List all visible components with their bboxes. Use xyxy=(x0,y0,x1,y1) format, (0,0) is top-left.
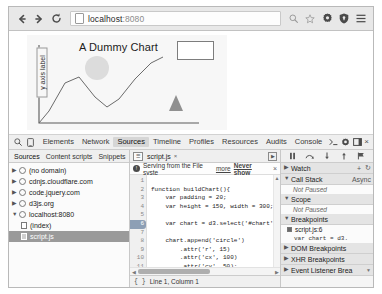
navtab-sources[interactable]: Sources xyxy=(11,153,43,160)
tree-item-d3js[interactable]: ▶ d3js.org xyxy=(9,198,129,209)
section-scope[interactable]: ▼ Scope xyxy=(281,194,373,205)
tab-sources[interactable]: Sources xyxy=(113,137,149,147)
code-area[interactable]: 1 2 3 4 5 6 7 8 9 10 11 12 xyxy=(130,175,280,275)
tree-item-index[interactable]: (index) xyxy=(9,220,129,231)
tree-item-cdnjs[interactable]: ▶ cdnjs.cloudflare.com xyxy=(9,176,129,187)
tree-item-label: (index) xyxy=(30,222,51,229)
console-prompt-icon[interactable] xyxy=(329,137,338,148)
tab-audits[interactable]: Audits xyxy=(262,137,291,147)
pretty-print-icon[interactable]: { } xyxy=(134,278,146,285)
line-number-breakpoint[interactable]: 6 xyxy=(130,220,146,229)
editor-nav-icon[interactable]: ☰ xyxy=(133,152,143,161)
twisty-icon[interactable]: ▼ xyxy=(12,212,19,218)
navtab-snippets[interactable]: Snippets xyxy=(95,153,128,160)
tab-console[interactable]: Console xyxy=(291,137,327,147)
code-line: var chart = d3.select('#chart'); xyxy=(151,220,280,229)
twisty-icon[interactable]: ▶ xyxy=(284,267,291,273)
step-into-icon[interactable] xyxy=(322,151,332,161)
tree-item-scriptjs[interactable]: script.js xyxy=(9,231,129,242)
line-number[interactable]: 9 xyxy=(130,246,146,255)
twisty-icon[interactable]: ▶ xyxy=(12,201,19,207)
tree-item-localhost[interactable]: ▼ localhost:8080 xyxy=(9,209,129,220)
twisty-icon[interactable]: ▶ xyxy=(284,256,291,262)
address-bar[interactable]: localhost:8080 xyxy=(70,11,281,26)
infobar-close-icon[interactable]: × xyxy=(273,165,277,172)
section-dom-breakpoints[interactable]: ▶ DOM Breakpoints xyxy=(281,243,373,254)
scrollbar-thumb[interactable] xyxy=(138,269,210,274)
device-toggle-icon[interactable] xyxy=(26,137,36,148)
source-editor: ☰ script.js × ▶ ! Serving from the File … xyxy=(130,150,281,287)
navigator-tabbar: Sources Content scripts Snippets xyxy=(9,150,129,163)
navtab-content-scripts[interactable]: Content scripts xyxy=(43,153,96,160)
section-watch[interactable]: ▶ Watch + ↻ xyxy=(281,163,373,174)
forward-arrow-icon[interactable] xyxy=(32,12,46,26)
section-xhr-breakpoints[interactable]: ▶ XHR Breakpoints xyxy=(281,254,373,265)
bookmark-star-icon[interactable] xyxy=(304,13,316,25)
gear-icon[interactable] xyxy=(321,13,333,25)
step-out-icon[interactable] xyxy=(339,151,349,161)
section-call-stack[interactable]: ▼ Call Stack Async xyxy=(281,174,373,185)
search-icon[interactable] xyxy=(287,13,299,25)
devtools-gear-icon[interactable] xyxy=(341,137,350,148)
twisty-icon[interactable]: ▶ xyxy=(12,168,19,174)
breakpoint-item[interactable]: script.js:6 xyxy=(281,225,373,234)
editor-horizontal-scrollbar[interactable]: ◀ ▶ xyxy=(130,267,280,275)
tree-item-jquery[interactable]: ▶ code.jquery.com xyxy=(9,187,129,198)
close-icon[interactable]: × xyxy=(174,153,178,159)
tab-elements[interactable]: Elements xyxy=(39,137,78,147)
twisty-icon[interactable]: ▼ xyxy=(284,216,291,222)
tree-item-no-domain[interactable]: ▶ (no domain) xyxy=(9,165,129,176)
async-toggle[interactable]: Async xyxy=(350,176,373,183)
tab-timeline[interactable]: Timeline xyxy=(149,137,185,147)
infobar-never-show-link[interactable]: Never show xyxy=(234,162,267,176)
menu-icon[interactable] xyxy=(355,13,367,25)
tab-network[interactable]: Network xyxy=(78,137,114,147)
reload-icon[interactable] xyxy=(49,12,63,26)
debugger-sidebar: ▶ Watch + ↻ ▼ Call Stack Async Not Pause… xyxy=(281,150,373,287)
line-number[interactable]: 5 xyxy=(130,211,146,220)
twisty-icon[interactable]: ▼ xyxy=(284,176,291,182)
line-number[interactable]: 2 xyxy=(130,186,146,195)
globe-icon xyxy=(19,200,26,207)
line-number-gutter[interactable]: 1 2 3 4 5 6 7 8 9 10 11 12 xyxy=(130,175,147,275)
twisty-icon[interactable]: ▶ xyxy=(284,245,291,251)
section-event-listener-breakpoints[interactable]: ▶ Event Listener Brea ▼ xyxy=(281,265,373,276)
twisty-icon[interactable]: ▶ xyxy=(12,190,19,196)
editor-vertical-scrollbar[interactable]: ▲ ▼ xyxy=(273,175,280,275)
tree-item-label: (no domain) xyxy=(29,167,66,174)
step-over-icon[interactable] xyxy=(305,151,315,161)
tab-resources[interactable]: Resources xyxy=(218,137,262,147)
line-number[interactable]: 3 xyxy=(130,194,146,203)
editor-tab-scriptjs[interactable]: script.js × xyxy=(147,153,177,160)
scroll-up-arrow-icon[interactable]: ▲ xyxy=(275,175,280,181)
scroll-left-arrow-icon[interactable]: ◀ xyxy=(130,269,137,275)
infobar-more-link[interactable]: more xyxy=(216,165,231,172)
twisty-icon[interactable]: ▶ xyxy=(12,179,19,185)
line-number[interactable]: 1 xyxy=(130,177,146,186)
editor-menu-icon[interactable]: ▶ xyxy=(268,152,277,161)
tab-profiles[interactable]: Profiles xyxy=(185,137,218,147)
line-number[interactable]: 10 xyxy=(130,254,146,263)
sidebar-scroll-down-icon[interactable]: ▼ xyxy=(366,267,373,273)
watch-refresh-icon[interactable]: ↻ xyxy=(363,164,373,172)
scroll-right-arrow-icon[interactable]: ▶ xyxy=(273,269,280,275)
watch-add-icon[interactable]: + xyxy=(355,165,363,172)
chart-axes xyxy=(39,45,199,123)
line-number[interactable]: 4 xyxy=(130,203,146,212)
devtools-close-button[interactable]: × xyxy=(364,138,369,146)
dock-icon[interactable] xyxy=(353,137,362,148)
browser-toolbar: localhost:8080 xyxy=(9,7,373,31)
twisty-icon[interactable]: ▼ xyxy=(284,196,291,202)
section-breakpoints[interactable]: ▼ Breakpoints xyxy=(281,214,373,225)
code-text[interactable]: function buildChart(){ var padding = 20;… xyxy=(147,175,280,275)
toolbar-icon-group xyxy=(287,13,367,25)
breakpoint-checkbox[interactable] xyxy=(287,227,292,232)
twisty-icon[interactable]: ▶ xyxy=(284,165,291,171)
shield-icon[interactable] xyxy=(338,13,350,25)
deactivate-breakpoints-icon[interactable] xyxy=(356,151,366,161)
inspect-search-icon[interactable] xyxy=(13,137,23,148)
line-number[interactable]: 8 xyxy=(130,237,146,246)
pause-resume-icon[interactable] xyxy=(288,151,298,161)
back-arrow-icon[interactable] xyxy=(15,12,29,26)
line-number[interactable]: 7 xyxy=(130,229,146,238)
